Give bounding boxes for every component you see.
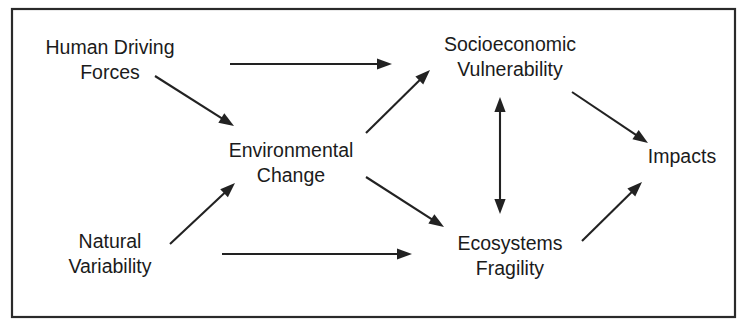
edge-environmental-change-to-socioeconomic-vulnerability: Environmental Change to Socioeconomic Vu… xyxy=(366,70,430,133)
edge-human-driving-forces-to-environmental-change: Human Driving Forces to Environmental Ch… xyxy=(155,76,234,126)
arrowhead-icon xyxy=(494,97,505,112)
node-label-line: Environmental xyxy=(229,139,354,161)
arrowhead-icon xyxy=(428,214,444,227)
node-label-line: Natural xyxy=(79,230,142,252)
node-label-line: Fragility xyxy=(476,257,545,279)
node-label-line: Human Driving xyxy=(46,36,175,58)
nodes-layer: Human DrivingForcesEnvironmentalChangeNa… xyxy=(46,33,717,279)
node-label-line: Vulnerability xyxy=(457,58,563,80)
node-label-line: Variability xyxy=(68,255,151,277)
node-socioeconomic-vulnerability: SocioeconomicVulnerability xyxy=(444,33,576,80)
node-impacts: Impacts xyxy=(648,145,717,167)
edge-line xyxy=(572,92,641,138)
node-label-line: Socioeconomic xyxy=(444,33,576,55)
edge-line xyxy=(170,189,229,244)
node-label-line: Change xyxy=(257,164,325,186)
arrowhead-icon xyxy=(397,248,412,259)
node-label-line: Ecosystems xyxy=(457,232,562,254)
causal-flow-diagram: Human Driving Forces to Socioeconomic Vu… xyxy=(0,0,750,327)
edge-ecosystems-fragility-to-impacts: Ecosystems Fragility to Impacts xyxy=(582,182,642,241)
node-label-line: Forces xyxy=(80,61,140,83)
arrowhead-icon xyxy=(377,58,392,69)
edge-socioeconomic-vulnerability-to-impacts: Socioeconomic Vulnerability to Impacts xyxy=(572,92,648,143)
node-label-line: Impacts xyxy=(648,145,717,167)
edge-line xyxy=(366,177,437,223)
edge-human-driving-forces-to-socioeconomic-vulnerability: Human Driving Forces to Socioeconomic Vu… xyxy=(230,58,392,69)
edge-natural-variability-to-environmental-change: Natural Variability to Environmental Cha… xyxy=(170,183,235,244)
edge-line xyxy=(582,188,636,241)
edge-natural-variability-to-ecosystems-fragility: Natural Variability to Ecosystems Fragil… xyxy=(222,248,412,259)
arrowhead-icon xyxy=(632,130,648,143)
edge-line xyxy=(155,76,227,122)
edge-socioeconomic-vulnerability-ecosystems-fragility-link: Socioeconomic Vulnerability and Ecosyste… xyxy=(494,97,505,214)
edge-environmental-change-to-ecosystems-fragility: Environmental Change to Ecosystems Fragi… xyxy=(366,177,444,227)
arrowhead-icon xyxy=(218,113,234,126)
node-ecosystems-fragility: EcosystemsFragility xyxy=(457,232,562,279)
arrowhead-icon xyxy=(494,199,505,214)
node-natural-variability: NaturalVariability xyxy=(68,230,151,277)
diagram-canvas: Human Driving Forces to Socioeconomic Vu… xyxy=(0,0,750,327)
node-environmental-change: EnvironmentalChange xyxy=(229,139,354,186)
edge-line xyxy=(366,76,424,133)
